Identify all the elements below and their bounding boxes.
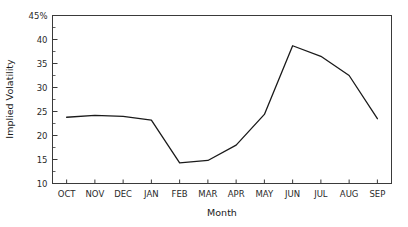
y-tick-label-25: 25 — [37, 107, 48, 117]
chart-figure: 1015202530354045% OCTNOVDECJANFEBMARAPRM… — [0, 0, 408, 227]
y-tick-label-20: 20 — [37, 131, 48, 141]
x-tick-label-JAN: JAN — [143, 189, 159, 199]
y-tick-label-35: 35 — [37, 59, 48, 69]
y-tick-label-30: 30 — [37, 83, 48, 93]
y-tick-label-45: 45% — [29, 11, 48, 21]
y-tick-label-40: 40 — [37, 35, 48, 45]
x-axis-title: Month — [207, 207, 237, 218]
x-tick-label-JUL: JUL — [313, 189, 328, 199]
x-tick-label-JUN: JUN — [284, 189, 300, 199]
x-tick-label-SEP: SEP — [369, 189, 385, 199]
x-tick-label-APR: APR — [228, 189, 245, 199]
y-tick-label-15: 15 — [37, 155, 48, 165]
x-tick-label-OCT: OCT — [58, 189, 77, 199]
x-tick-label-AUG: AUG — [340, 189, 359, 199]
y-tick-label-10: 10 — [37, 179, 48, 189]
x-tick-label-DEC: DEC — [114, 189, 132, 199]
implied-volatility-line-chart: 1015202530354045% OCTNOVDECJANFEBMARAPRM… — [0, 0, 408, 227]
x-tick-label-MAY: MAY — [256, 189, 274, 199]
x-tick-label-FEB: FEB — [172, 189, 188, 199]
x-tick-label-MAR: MAR — [198, 189, 217, 199]
x-tick-label-NOV: NOV — [86, 189, 105, 199]
y-axis-title: Implied Volatility — [4, 59, 15, 139]
